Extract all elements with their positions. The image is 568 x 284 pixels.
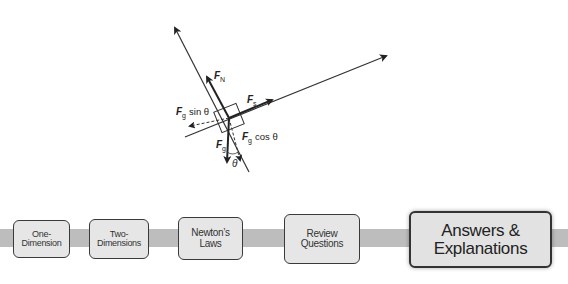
nav-label-line2: Explanations bbox=[434, 240, 528, 258]
nav-label: Newton’s Laws bbox=[179, 228, 242, 249]
nav-review-questions[interactable]: Review Questions bbox=[284, 214, 360, 264]
label-gravity-sin: Fgsin θ bbox=[176, 106, 209, 120]
gravity-arrow bbox=[227, 118, 229, 162]
nav-answers-explanations[interactable]: Answers & Explanations bbox=[409, 211, 552, 268]
label-gravity: Fg bbox=[216, 139, 226, 153]
label-static-friction: Fs bbox=[247, 94, 257, 107]
nav-label-line1: Answers & bbox=[434, 222, 528, 240]
free-body-diagram: FN Fs Fgsin θ Fgcos θ Fg θ bbox=[0, 0, 568, 200]
nav-two-dimensions[interactable]: Two- Dimensions bbox=[89, 219, 149, 259]
nav-one-dimension[interactable]: One- Dimension bbox=[13, 220, 70, 258]
normal-axis-line bbox=[175, 28, 249, 172]
nav-label-line2: Dimensions bbox=[97, 239, 141, 248]
label-normal-force: FN bbox=[214, 70, 225, 83]
label-angle: θ bbox=[232, 158, 238, 169]
nav-newtons-laws[interactable]: Newton’s Laws bbox=[178, 217, 243, 260]
nav-label-line2: Dimension bbox=[22, 239, 62, 248]
incline-line bbox=[185, 56, 386, 137]
angle-arc bbox=[227, 152, 238, 154]
label-gravity-cos: Fgcos θ bbox=[242, 131, 278, 145]
nav-label: Review Questions bbox=[285, 229, 359, 250]
